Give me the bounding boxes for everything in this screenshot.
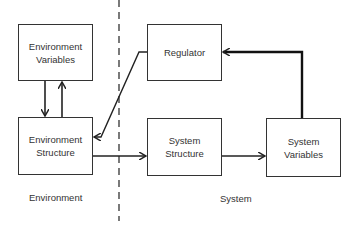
box-label-line1: Regulator	[164, 46, 205, 59]
box-label-line1: System	[165, 134, 204, 147]
regulator-box: Regulator	[147, 24, 222, 81]
environment-variables-box: Environment Variables	[18, 24, 93, 81]
arrow-sysvar-to-regulator	[223, 52, 302, 118]
box-label-line1: Environment	[29, 40, 82, 53]
environment-structure-box: Environment Structure	[18, 117, 93, 175]
box-label-line2: Variables	[284, 148, 323, 161]
system-structure-box: System Structure	[147, 118, 222, 176]
box-label-line1: Environment	[29, 133, 82, 146]
environment-region-label: Environment	[29, 192, 82, 203]
box-label-line1: System	[284, 135, 323, 148]
box-label-line2: Variables	[29, 53, 82, 66]
system-region-label: System	[220, 193, 252, 204]
box-label-line2: Structure	[165, 147, 204, 160]
arrow-regulator-to-envstruct	[94, 52, 147, 137]
system-variables-box: System Variables	[266, 118, 341, 177]
box-label-line2: Structure	[29, 146, 82, 159]
